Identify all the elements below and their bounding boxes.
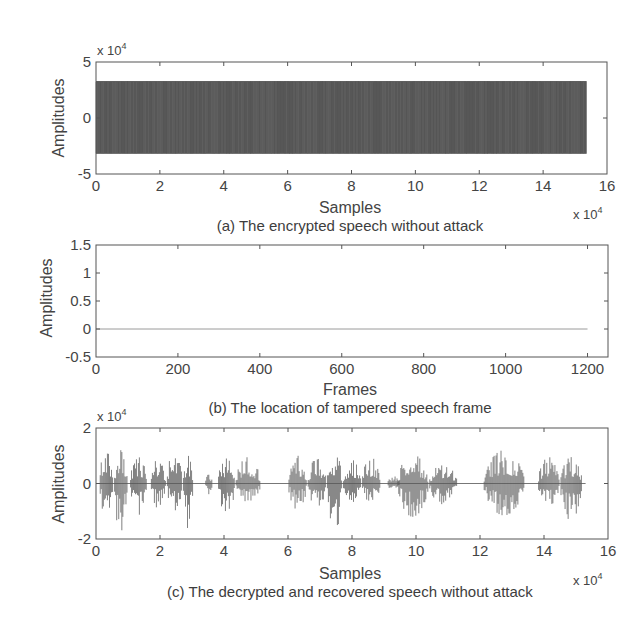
axes-box xyxy=(96,245,608,357)
x-tick-label: 4 xyxy=(220,177,228,194)
x-tick-label: 8 xyxy=(347,177,355,194)
tick-marks: 020040060080010001200-0.500.511.5 xyxy=(65,236,608,377)
panel-b: 020040060080010001200-0.500.511.5 Amplit… xyxy=(38,236,608,416)
x-tick-label: 2 xyxy=(156,542,164,559)
x-tick-label: 2 xyxy=(156,177,164,194)
panel-a: 0246810121416-505 x 104 x 104 Amplitudes… xyxy=(50,41,615,234)
figure: 0246810121416-505 x 104 x 104 Amplitudes… xyxy=(0,0,644,632)
x-tick-label: 6 xyxy=(284,542,292,559)
y-tick-label: 0 xyxy=(83,320,91,337)
x-tick-label: 10 xyxy=(408,542,425,559)
y-tick-label: -0.5 xyxy=(65,348,91,365)
x-axis-label: Frames xyxy=(323,381,377,398)
x-tick-label: 0 xyxy=(92,360,100,377)
y-tick-label: 2 xyxy=(83,419,91,436)
y-axis-label: Amplitudes xyxy=(50,78,67,157)
y-tick-label: 1 xyxy=(83,264,91,281)
y-tick-label: 0.5 xyxy=(70,292,91,309)
y-tick-label: -5 xyxy=(78,165,91,182)
x-tick-label: 1000 xyxy=(489,360,522,377)
x-tick-label: 8 xyxy=(348,542,356,559)
y-multiplier: x 104 xyxy=(97,41,127,58)
y-axis-label: Amplitudes xyxy=(38,258,55,337)
recovered-speech-signal xyxy=(96,450,586,530)
encrypted-signal xyxy=(96,81,587,154)
y-tick-label: 1.5 xyxy=(70,236,91,253)
x-tick-label: 6 xyxy=(283,177,291,194)
y-axis-label: Amplitudes xyxy=(50,444,67,523)
x-multiplier: x 104 xyxy=(573,205,603,222)
x-tick-label: 12 xyxy=(471,177,488,194)
x-axis-label: Samples xyxy=(319,565,381,582)
x-tick-label: 800 xyxy=(411,360,436,377)
panel-c: 0246810121416-202 x 104 x 104 Amplitudes… xyxy=(50,407,616,600)
x-tick-label: 0 xyxy=(92,177,100,194)
x-tick-label: 400 xyxy=(247,360,272,377)
x-tick-label: 1200 xyxy=(571,360,604,377)
y-tick-label: 0 xyxy=(83,475,91,492)
x-tick-label: 16 xyxy=(599,177,616,194)
x-tick-label: 14 xyxy=(536,542,553,559)
y-tick-label: 5 xyxy=(83,53,91,70)
x-multiplier: x 104 xyxy=(573,571,603,588)
x-tick-label: 12 xyxy=(472,542,489,559)
x-tick-label: 14 xyxy=(535,177,552,194)
y-multiplier: x 104 xyxy=(97,407,127,424)
x-tick-label: 0 xyxy=(92,542,100,559)
x-tick-label: 10 xyxy=(407,177,424,194)
y-tick-label: -2 xyxy=(78,530,91,547)
y-tick-label: 0 xyxy=(83,109,91,126)
caption-a: (a) The encrypted speech without attack xyxy=(217,217,484,234)
x-tick-label: 16 xyxy=(600,542,617,559)
caption-b: (b) The location of tampered speech fram… xyxy=(208,399,491,416)
caption-c: (c) The decrypted and recovered speech w… xyxy=(167,583,533,600)
x-tick-label: 200 xyxy=(165,360,190,377)
x-tick-label: 4 xyxy=(220,542,228,559)
x-tick-label: 600 xyxy=(329,360,354,377)
x-axis-label: Samples xyxy=(319,199,381,216)
